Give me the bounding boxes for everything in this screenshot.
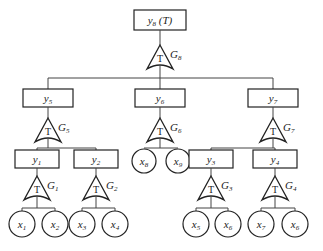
gate-label-g4: G4 xyxy=(285,179,297,193)
gate-symbol: T xyxy=(270,126,276,137)
gate-symbol: T xyxy=(157,53,163,64)
gate-symbol: T xyxy=(208,184,214,195)
gate-symbol: T xyxy=(34,184,40,195)
gate-label-g6: G6 xyxy=(170,121,182,135)
fault-tree-diagram: y8 (T)TG8y5TG5y6TG6y7TG7x8x9y1TG1x1x2y2T… xyxy=(0,0,323,251)
gate-label-g5: G5 xyxy=(58,121,70,135)
gate-symbol: T xyxy=(157,126,163,137)
gate-symbol: T xyxy=(45,126,51,137)
gate-label-g7: G7 xyxy=(283,121,295,135)
event-y8-label: y8 (T) xyxy=(147,14,173,28)
gate-symbol: T xyxy=(93,184,99,195)
gate-label-g1: G1 xyxy=(47,179,58,193)
gate-label-g2: G2 xyxy=(106,179,118,193)
gate-label-g8: G8 xyxy=(170,48,182,62)
gate-label-g3: G3 xyxy=(221,179,233,193)
gate-symbol: T xyxy=(272,184,278,195)
